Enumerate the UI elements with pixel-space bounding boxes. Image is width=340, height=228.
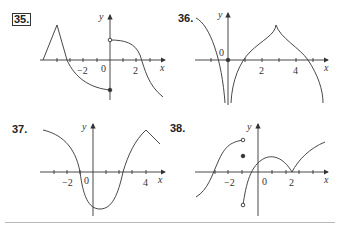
curve-right-rise xyxy=(292,142,325,172)
svg-text:−2: −2 xyxy=(62,177,73,188)
svg-text:−2: −2 xyxy=(77,65,88,76)
svg-text:y: y xyxy=(246,121,252,132)
curve-left-branch xyxy=(196,140,243,197)
closed-dot-isolated xyxy=(241,154,245,158)
svg-text:x: x xyxy=(157,174,163,185)
closed-dot xyxy=(108,88,112,92)
svg-text:0: 0 xyxy=(262,176,267,187)
svg-text:0: 0 xyxy=(219,47,224,58)
curve-middle-rise xyxy=(231,25,276,103)
horizontal-rule xyxy=(5,222,335,223)
curve-triangle xyxy=(43,25,67,60)
svg-text:y: y xyxy=(217,9,223,20)
curve-after-corner xyxy=(146,130,160,144)
svg-text:x: x xyxy=(159,62,165,73)
svg-text:0: 0 xyxy=(101,63,106,74)
graph-38: −2 0 2 x y xyxy=(195,121,329,216)
open-circle xyxy=(108,38,112,42)
curve-left-branch xyxy=(196,18,225,103)
svg-text:y: y xyxy=(81,121,87,132)
svg-text:0: 0 xyxy=(84,175,89,186)
closed-dot-origin xyxy=(226,58,230,62)
svg-text:2: 2 xyxy=(133,65,138,76)
graph-37: −2 0 4 x y xyxy=(40,121,165,216)
graphs-canvas: −2 0 2 x y 0 2 4 x y xyxy=(0,0,340,228)
open-circle-bottom xyxy=(241,203,245,207)
svg-text:x: x xyxy=(323,174,329,185)
graph-36: 0 2 4 x y xyxy=(195,9,329,105)
svg-text:y: y xyxy=(98,11,104,22)
svg-text:2: 2 xyxy=(259,65,264,76)
graph-35: −2 0 2 x y xyxy=(40,11,165,100)
curve-middle-hump xyxy=(243,157,292,205)
svg-text:x: x xyxy=(323,62,329,73)
svg-text:4: 4 xyxy=(143,177,148,188)
curve-right-fall xyxy=(276,25,323,103)
svg-text:2: 2 xyxy=(289,177,294,188)
svg-text:4: 4 xyxy=(293,65,298,76)
open-circle-top xyxy=(241,138,245,142)
svg-text:−2: −2 xyxy=(224,177,235,188)
curve-main xyxy=(43,130,146,209)
